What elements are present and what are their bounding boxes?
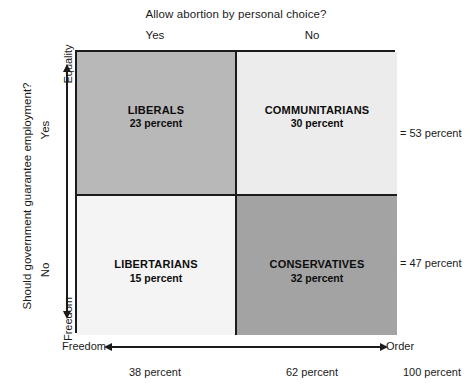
row-total-bottom: = 47 percent xyxy=(400,257,461,269)
quadrant-communitarians[interactable]: COMMUNITARIANS 30 percent xyxy=(237,52,397,196)
x-axis-left-label: Freedom xyxy=(62,340,106,352)
grand-total: 100 percent xyxy=(392,366,472,378)
x-axis-right-label: Order xyxy=(386,340,414,352)
column-total-right: 62 percent xyxy=(272,366,352,378)
y-axis-question: Should government guarantee employment? xyxy=(21,76,33,316)
quadrant-conservatives-percent: 32 percent xyxy=(270,272,365,285)
y-axis-top-label: Equality xyxy=(62,35,74,93)
quadrant-liberals-label: LIBERALS xyxy=(128,104,185,118)
quadrant-libertarians[interactable]: LIBERTARIANS 15 percent xyxy=(77,196,237,335)
quadrant-liberals[interactable]: LIBERALS 23 percent xyxy=(77,52,237,196)
quadrant-libertarians-label: LIBERTARIANS xyxy=(114,258,197,272)
horizontal-double-arrow-icon xyxy=(112,346,380,348)
column-header-yes: Yes xyxy=(115,29,195,41)
row-total-top: = 53 percent xyxy=(400,127,461,139)
quadrant-liberals-percent: 23 percent xyxy=(128,117,185,130)
quadrant-communitarians-percent: 30 percent xyxy=(265,117,370,130)
quadrant-matrix: LIBERALS 23 percent COMMUNITARIANS 30 pe… xyxy=(75,50,395,333)
column-total-left: 38 percent xyxy=(115,366,195,378)
chart-title: Allow abortion by personal choice? xyxy=(0,8,472,20)
row-header-no: No xyxy=(39,250,51,290)
quadrant-conservatives[interactable]: CONSERVATIVES 32 percent xyxy=(237,196,397,335)
quadrant-conservatives-label: CONSERVATIVES xyxy=(270,258,365,272)
vertical-double-arrow-icon xyxy=(66,72,68,311)
row-header-yes: Yes xyxy=(39,110,51,150)
column-header-no: No xyxy=(272,29,352,41)
quadrant-libertarians-percent: 15 percent xyxy=(114,272,197,285)
quadrant-communitarians-label: COMMUNITARIANS xyxy=(265,104,370,118)
